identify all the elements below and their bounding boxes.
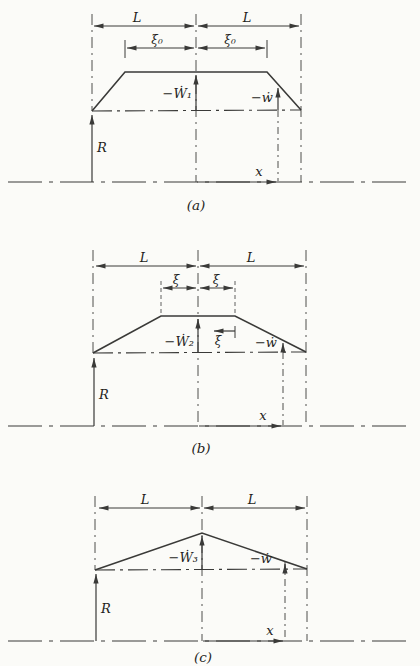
x-label-a: x bbox=[255, 164, 263, 179]
center-velocity-label-a: −Ẇ₁ bbox=[163, 85, 192, 101]
x-label-b: x bbox=[259, 408, 267, 423]
xi0-label-right-a: ξ₀ bbox=[224, 33, 236, 47]
figure-page: L L ξ₀ ξ₀ −Ẇ₁ −ẇ R x (a) bbox=[0, 0, 420, 666]
xi-coordinate-label-b: ξ bbox=[215, 334, 223, 348]
L-label-left-a: L bbox=[132, 10, 142, 25]
L-label-left-b: L bbox=[139, 250, 149, 265]
beam-velocity-profiles-figure: L L ξ₀ ξ₀ −Ẇ₁ −ẇ R x (a) bbox=[0, 0, 420, 666]
L-label-right-b: L bbox=[246, 250, 256, 265]
L-label-right-a: L bbox=[242, 10, 252, 25]
local-velocity-label-c: −ẇ bbox=[250, 551, 272, 566]
xi-label-left-b: ξ bbox=[173, 273, 181, 287]
xi-label-right-b: ξ bbox=[213, 273, 221, 287]
caption-b: (b) bbox=[191, 440, 210, 456]
diagram-a: L L ξ₀ ξ₀ −Ẇ₁ −ẇ R x (a) bbox=[8, 10, 412, 213]
local-velocity-label-a: −ẇ bbox=[251, 90, 273, 105]
caption-a: (a) bbox=[187, 197, 206, 213]
diagram-c: L L −Ẇ₃ −ẇ R x (c) bbox=[8, 492, 412, 665]
L-label-right-c: L bbox=[247, 492, 257, 507]
reaction-label-c: R bbox=[100, 601, 111, 616]
center-velocity-label-b: −Ẇ₂ bbox=[165, 333, 194, 349]
caption-c: (c) bbox=[194, 649, 212, 665]
diagram-b: L L ξ ξ ξ −Ẇ₂ −ẇ R x (b) bbox=[8, 250, 412, 456]
reaction-label-a: R bbox=[96, 140, 107, 155]
profile-datum-b bbox=[93, 352, 306, 353]
xi0-label-left-a: ξ₀ bbox=[151, 33, 163, 47]
L-label-left-c: L bbox=[140, 492, 150, 507]
x-label-c: x bbox=[266, 623, 274, 638]
profile-datum-c bbox=[95, 569, 307, 570]
center-velocity-label-c: −Ẇ₃ bbox=[169, 549, 198, 565]
velocity-profile-c bbox=[95, 533, 307, 570]
reaction-label-b: R bbox=[98, 387, 109, 402]
local-velocity-label-b: −ẇ bbox=[255, 335, 277, 350]
